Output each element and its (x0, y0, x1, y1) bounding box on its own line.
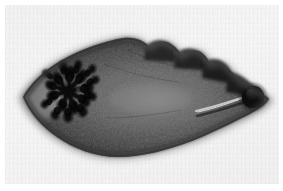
specimen-micrograph-figure: flatworm-specimen (0, 0, 283, 191)
specimen-stage (0, 0, 283, 191)
plate-margin-right (279, 0, 283, 191)
specimen-vector-rendering (0, 0, 283, 191)
plate-margin-bottom (0, 185, 283, 191)
plate-margin-top (0, 0, 283, 5)
plate-margin-left (0, 0, 5, 191)
